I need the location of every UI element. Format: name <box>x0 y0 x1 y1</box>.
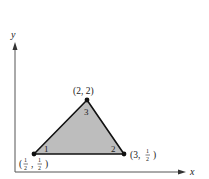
vertex-2-prefix: (3, <box>130 150 140 161</box>
vertex-1-frac1-den: 2 <box>24 165 27 171</box>
y-axis-arrow-icon <box>13 42 18 50</box>
node-3-dot <box>85 98 90 103</box>
local-number-3: 3 <box>84 107 89 117</box>
vertex-2-frac-num: 1 <box>146 148 149 154</box>
node-2-dot <box>122 152 127 157</box>
vertex-3-coord-label: (2, 2) <box>73 86 94 97</box>
y-axis-label: y <box>10 29 16 40</box>
vertex-1-frac1-num: 1 <box>24 157 27 163</box>
x-axis-label: x <box>189 166 195 177</box>
vertex-2-frac-den: 2 <box>146 156 149 162</box>
vertex-2-close: ) <box>153 150 156 161</box>
vertex-1-close: ) <box>45 159 48 170</box>
vertex-2-coord-label: (3, 1 2 ) <box>130 148 156 162</box>
vertex-1-frac2-num: 1 <box>38 157 41 163</box>
x-axis-arrow-icon <box>178 170 186 175</box>
vertex-1-frac2-den: 2 <box>38 165 41 171</box>
local-number-1: 1 <box>44 144 49 154</box>
vertex-1-sep: , <box>31 159 33 169</box>
node-1-dot <box>32 152 37 157</box>
triangle-diagram: y x 1 2 3 (2, 2) (3, 1 2 ) ( 1 2 , 1 2 ) <box>0 0 209 179</box>
vertex-1-coord-label: ( 1 2 , 1 2 ) <box>19 157 48 171</box>
local-number-2: 2 <box>111 144 116 154</box>
vertex-1-open: ( <box>19 159 22 170</box>
